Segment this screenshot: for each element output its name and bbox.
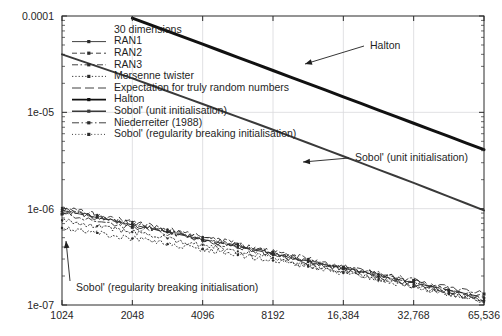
series-marker bbox=[307, 265, 309, 267]
series-marker bbox=[202, 244, 204, 246]
series-marker bbox=[131, 231, 133, 233]
series-marker bbox=[166, 237, 168, 239]
series-marker bbox=[166, 243, 168, 245]
series-marker bbox=[377, 279, 379, 281]
annotation-arrowhead bbox=[305, 59, 312, 64]
series-marker bbox=[201, 248, 203, 250]
series-marker bbox=[237, 250, 239, 252]
series-marker bbox=[96, 232, 98, 234]
x-tick-label: 4096 bbox=[191, 309, 215, 321]
series-marker bbox=[201, 236, 204, 239]
x-tick-label: 16,384 bbox=[327, 309, 359, 321]
y-tick-label: 1e-07 bbox=[27, 299, 54, 311]
y-tick-label: 0.0001 bbox=[22, 10, 54, 22]
legend-entry[interactable]: RAN2 bbox=[72, 46, 142, 58]
legend-marker-sample bbox=[87, 133, 90, 136]
legend-entry[interactable]: Halton bbox=[72, 92, 145, 104]
annotation-arrowhead bbox=[64, 241, 70, 248]
x-tick-label: 2048 bbox=[121, 309, 145, 321]
legend-entry[interactable]: RAN3 bbox=[72, 58, 142, 70]
legend-entry-label: RAN3 bbox=[114, 58, 142, 70]
x-tick-label: 65,536 bbox=[468, 309, 500, 321]
legend-entry-label: Niederreiter (1988) bbox=[114, 116, 202, 128]
series-marker bbox=[131, 226, 134, 229]
legend-entry[interactable]: Sobol' (regularity breaking initialisati… bbox=[72, 127, 296, 139]
legend-entry[interactable]: Mersenne twister bbox=[72, 69, 194, 81]
legend-marker-sample bbox=[87, 110, 90, 113]
annotation: Sobol' (regularity breaking initialisati… bbox=[64, 241, 258, 293]
annotation: Halton bbox=[305, 39, 401, 65]
legend-entry-label: Expectation for truly random numbers bbox=[114, 81, 289, 93]
legend-entry-label: Sobol' (unit initialisation) bbox=[114, 104, 227, 116]
legend-title: 30 dimensions bbox=[114, 23, 182, 35]
series-marker bbox=[237, 254, 239, 256]
chart-legend: 30 dimensionsRAN1RAN2RAN3Mersenne twiste… bbox=[72, 23, 296, 139]
x-axis-labels: 102420484096819216,38432,76865,536 bbox=[50, 309, 500, 321]
annotation-arrowhead bbox=[303, 159, 310, 165]
series-marker bbox=[377, 274, 380, 277]
x-tick-label: 8192 bbox=[261, 309, 285, 321]
y-axis-labels: 0.00011e-051e-061e-07 bbox=[22, 10, 54, 311]
legend-entry-label: RAN1 bbox=[114, 34, 142, 46]
legend-entry[interactable]: Sobol' (unit initialisation) bbox=[72, 104, 227, 116]
series-marker bbox=[201, 239, 204, 242]
legend-entry-label: Mersenne twister bbox=[114, 69, 194, 81]
annotation: Sobol' (unit initialisation) bbox=[303, 151, 468, 164]
legend-marker-sample bbox=[87, 75, 90, 78]
legend-entry-label: Sobol' (regularity breaking initialisati… bbox=[114, 127, 296, 139]
chart-svg: 102420484096819216,38432,76865,536 0.000… bbox=[0, 0, 502, 336]
legend-entry-label: Halton bbox=[114, 92, 145, 104]
legend-entry-label: RAN2 bbox=[114, 46, 142, 58]
series-marker bbox=[272, 259, 274, 261]
annotation-label: Halton bbox=[370, 39, 401, 51]
series-marker bbox=[131, 237, 133, 239]
series-marker bbox=[412, 285, 414, 287]
legend-entry[interactable]: RAN1 bbox=[72, 34, 142, 46]
legend-marker-sample bbox=[87, 52, 90, 55]
legend-entry[interactable]: Niederreiter (1988) bbox=[72, 116, 202, 128]
y-tick-label: 1e-05 bbox=[27, 106, 54, 118]
series-marker bbox=[448, 293, 450, 295]
legend-marker-sample bbox=[87, 98, 90, 101]
y-tick-label: 1e-06 bbox=[27, 203, 54, 215]
series-marker bbox=[96, 225, 98, 227]
legend-entry[interactable]: Expectation for truly random numbers bbox=[72, 81, 289, 93]
series-marker bbox=[412, 279, 415, 282]
legend-marker-sample bbox=[87, 121, 90, 124]
series-marker bbox=[272, 252, 275, 255]
series-marker bbox=[272, 257, 274, 259]
chart-container: 102420484096819216,38432,76865,536 0.000… bbox=[0, 0, 502, 336]
annotation-label: Sobol' (unit initialisation) bbox=[355, 151, 468, 163]
legend-marker-sample bbox=[87, 63, 90, 66]
legend-marker-sample bbox=[87, 40, 90, 43]
x-tick-label: 32,768 bbox=[398, 309, 430, 321]
annotation-label: Sobol' (regularity breaking initialisati… bbox=[76, 281, 258, 293]
annotation-leader-line bbox=[305, 46, 364, 64]
series-marker bbox=[342, 266, 345, 269]
series-marker bbox=[342, 272, 344, 274]
